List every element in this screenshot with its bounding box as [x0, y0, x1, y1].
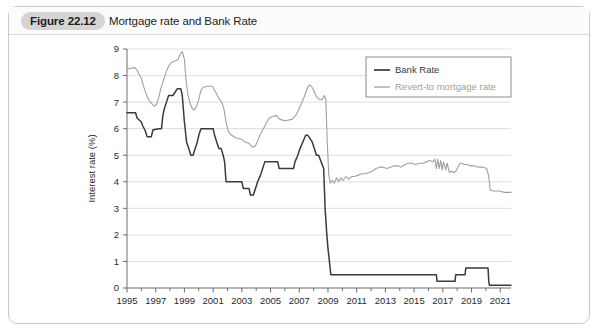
x-tick-label: 2017	[432, 295, 453, 306]
x-axis-tick-labels: 1995199719992001200320052007200920112013…	[116, 295, 510, 306]
x-tick-label: 2015	[404, 295, 425, 306]
y-axis-title: Interest rate (%)	[86, 134, 97, 202]
figure-number-badge: Figure 22.12	[21, 12, 105, 30]
y-tick-label: 8	[114, 70, 119, 81]
y-axis-ticks	[123, 49, 127, 288]
x-tick-label: 2019	[461, 295, 482, 306]
y-axis-tick-labels: 0123456789	[114, 43, 119, 293]
x-tick-label: 2001	[203, 295, 224, 306]
x-tick-label: 2007	[289, 295, 310, 306]
legend-label: Bank Rate	[395, 64, 439, 75]
y-tick-label: 0	[114, 282, 119, 293]
x-tick-label: 1997	[145, 295, 166, 306]
x-tick-label: 1999	[174, 295, 195, 306]
x-tick-label: 2009	[317, 295, 338, 306]
y-tick-label: 9	[114, 43, 119, 54]
chart-legend: Bank RateRevert-to mortgage rate	[366, 57, 511, 97]
figure-header: Figure 22.12 Mortgage rate and Bank Rate	[9, 7, 589, 35]
x-tick-label: 2005	[260, 295, 281, 306]
legend-label: Revert-to mortgage rate	[395, 81, 496, 92]
chart-area: 0123456789 19951997199920012003200520072…	[9, 35, 589, 324]
x-tick-label: 2003	[231, 295, 252, 306]
y-tick-label: 6	[114, 123, 119, 134]
series-line-bank-rate	[127, 89, 511, 286]
x-axis-ticks	[127, 288, 500, 293]
y-tick-label: 2	[114, 229, 119, 240]
y-tick-label: 7	[114, 97, 119, 108]
figure-title: Mortgage rate and Bank Rate	[109, 12, 257, 30]
x-tick-label: 2013	[375, 295, 396, 306]
y-tick-label: 3	[114, 203, 119, 214]
y-tick-label: 5	[114, 150, 119, 161]
interest-rate-line-chart: 0123456789 19951997199920012003200520072…	[9, 35, 589, 324]
x-tick-label: 2021	[490, 295, 511, 306]
figure-card: Figure 22.12 Mortgage rate and Bank Rate…	[8, 6, 590, 324]
y-tick-label: 1	[114, 256, 119, 267]
x-tick-label: 2011	[346, 295, 366, 306]
y-tick-label: 4	[114, 176, 119, 187]
x-tick-label: 1995	[116, 295, 137, 306]
